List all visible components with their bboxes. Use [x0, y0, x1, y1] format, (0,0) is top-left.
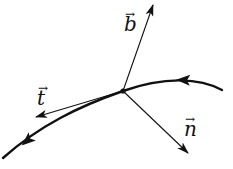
normal-label: → n: [184, 119, 197, 139]
tangent-vector-arrow: [36, 91, 123, 117]
base-point: [120, 88, 125, 93]
tangent-label: → t: [37, 88, 45, 108]
frenet-frame-diagram: → b → t → n: [0, 0, 233, 169]
binormal-label: → b: [124, 14, 137, 34]
normal-vector-arrow: [123, 91, 188, 153]
vector-arrow-glyph: →: [38, 82, 48, 94]
diagram-svg: [0, 0, 233, 169]
vector-arrow-glyph: →: [185, 113, 195, 125]
vector-arrow-glyph: →: [125, 8, 135, 20]
